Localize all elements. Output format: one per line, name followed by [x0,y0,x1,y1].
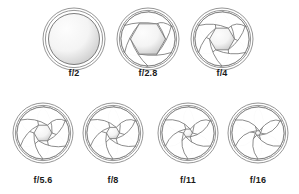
aperture-figure: f/2f/2.8f/4f/5.6f/8f/11f/16 [0,0,299,194]
aperture-cell-f-5-6: f/5.6 [10,100,76,166]
aperture-diagram [155,100,221,166]
aperture-label: f/2 [40,68,108,78]
aperture-diagram [188,5,256,73]
aperture-cell-f-16: f/16 [225,100,291,166]
aperture-label: f/5.6 [10,175,76,185]
aperture-label: f/8 [80,175,146,185]
aperture-diagram [225,100,291,166]
aperture-graphic [10,100,76,166]
aperture-cell-f-11: f/11 [155,100,221,166]
aperture-graphic [80,100,146,166]
aperture-cell-f-2: f/2 [40,5,108,73]
aperture-opening [184,129,193,137]
aperture-graphic [155,100,221,166]
aperture-graphic [188,5,256,73]
aperture-graphic [225,100,291,166]
aperture-opening [107,127,120,138]
aperture-label: f/2.8 [114,68,182,78]
aperture-cell-f-8: f/8 [80,100,146,166]
aperture-label: f/11 [155,175,221,185]
aperture-graphic [40,5,108,73]
aperture-diagram [114,5,182,73]
aperture-cell-f-4: f/4 [188,5,256,73]
aperture-diagram [80,100,146,166]
aperture-label: f/16 [225,175,291,185]
aperture-graphic [114,5,182,73]
aperture-diagram [10,100,76,166]
aperture-cell-f-2-8: f/2.8 [114,5,182,73]
aperture-opening [255,131,260,136]
aperture-label: f/4 [188,68,256,78]
aperture-diagram [40,5,108,73]
aperture-opening [210,28,235,50]
aperture-opening [34,125,52,141]
